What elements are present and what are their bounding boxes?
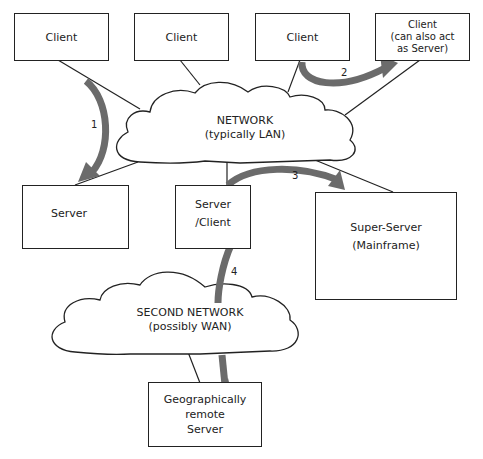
flow-label-2: 2 xyxy=(341,67,347,78)
flow-label-3: 3 xyxy=(292,170,298,181)
client-node-2: Client xyxy=(134,13,229,61)
flow-label-1: 1 xyxy=(91,119,97,130)
client-node-3: Client xyxy=(255,13,350,61)
client-server-node: Client (can also act as Server) xyxy=(375,13,470,61)
remote-server-node: Geographically remote Server xyxy=(148,382,262,447)
super-server-node: Super-Server (Mainframe) xyxy=(315,192,457,300)
client-node-1: Client xyxy=(14,13,109,61)
second-network-label: SECOND NETWORK (possibly WAN) xyxy=(120,306,260,334)
flow-label-4: 4 xyxy=(231,266,237,277)
server-node: Server xyxy=(22,185,129,249)
server-client-node: Server /Client xyxy=(175,185,251,249)
network-label: NETWORK (typically LAN) xyxy=(185,114,305,142)
